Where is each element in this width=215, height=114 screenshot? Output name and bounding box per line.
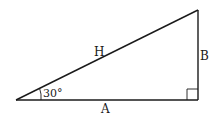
right-angle-marker: [187, 89, 198, 100]
angle-arc: [40, 88, 42, 100]
angle-label: 30°: [43, 87, 63, 100]
hypotenuse-label: H: [94, 45, 104, 59]
horizontal-leg-label: A: [100, 102, 110, 114]
right-triangle-diagram: H B A 30°: [0, 0, 215, 114]
vertical-leg-label: B: [200, 49, 209, 63]
